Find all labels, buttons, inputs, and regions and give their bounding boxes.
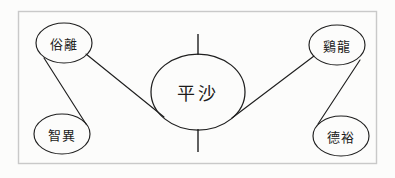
node-deogyu[interactable]: 德裕 [313,116,369,156]
node-gyeryong[interactable]: 鷄龍 [309,25,365,65]
diagram-canvas: 俗離 智異 平沙 鷄龍 德裕 [0,0,395,178]
node-jiri-label: 智異 [48,128,76,143]
node-jiri[interactable]: 智異 [34,114,90,154]
node-pyeongsa[interactable]: 平沙 [151,54,245,130]
node-songni[interactable]: 俗離 [36,23,92,63]
node-deogyu-label: 德裕 [327,130,355,145]
node-pyeongsa-label: 平沙 [177,83,219,104]
network-diagram: 俗離 智異 平沙 鷄龍 德裕 [0,0,395,178]
node-gyeryong-label: 鷄龍 [323,39,351,54]
node-songni-label: 俗離 [50,37,78,52]
